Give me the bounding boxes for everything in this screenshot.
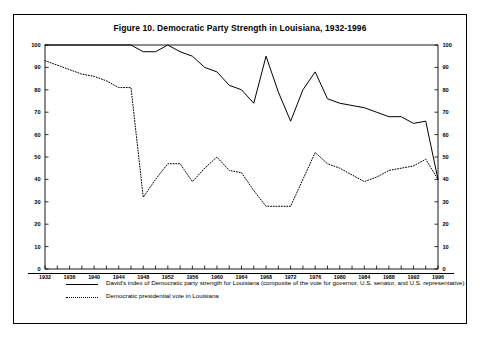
y-tick-label-right: 20 xyxy=(443,221,449,227)
y-tick-label-left: 10 xyxy=(34,244,40,250)
y-tick-label-left: 20 xyxy=(34,221,40,227)
legend-label-party-strength: David's index of Democratic party streng… xyxy=(106,280,465,286)
y-tick-label-right: 50 xyxy=(443,154,449,160)
legend-item-presidential-vote: Democratic presidential vote in Louisian… xyxy=(28,290,458,303)
y-tick-label-left: 50 xyxy=(34,154,40,160)
y-tick-label-left: 70 xyxy=(34,109,40,115)
y-tick-label-right: 40 xyxy=(443,176,449,182)
y-tick-label-left: 40 xyxy=(34,176,40,182)
y-tick-label-right: 70 xyxy=(443,109,449,115)
series-party-strength-line xyxy=(45,45,438,179)
y-tick-label-right: 100 xyxy=(443,42,452,48)
figure-frame: Figure 10. Democratic Party Strength in … xyxy=(13,14,467,324)
y-tick-label-right: 0 xyxy=(443,266,446,272)
y-tick-label-left: 100 xyxy=(31,42,40,48)
y-tick-label-right: 10 xyxy=(443,244,449,250)
legend-divider xyxy=(28,273,454,274)
y-tick-label-right: 30 xyxy=(443,199,449,205)
y-tick-label-left: 90 xyxy=(34,64,40,70)
y-tick-label-right: 90 xyxy=(443,64,449,70)
legend-label-presidential-vote: Democratic presidential vote in Louisian… xyxy=(106,293,219,299)
legend-dotted-line-icon xyxy=(66,292,100,302)
legend-item-party-strength: David's index of Democratic party streng… xyxy=(28,277,458,290)
y-tick-label-left: 30 xyxy=(34,199,40,205)
legend-solid-line-icon xyxy=(66,279,100,289)
chart-legend: David's index of Democratic party streng… xyxy=(28,277,458,303)
y-tick-label-left: 0 xyxy=(37,266,40,272)
y-tick-label-right: 80 xyxy=(443,87,449,93)
series-presidential-vote-line xyxy=(45,61,438,207)
y-tick-label-left: 80 xyxy=(34,87,40,93)
y-tick-label-right: 60 xyxy=(443,132,449,138)
y-tick-label-left: 60 xyxy=(34,132,40,138)
